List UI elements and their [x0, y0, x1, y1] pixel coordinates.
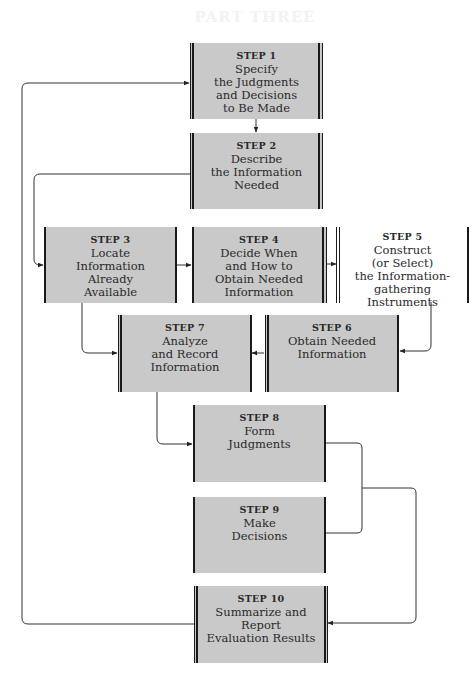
step-1-box: STEP 1 Specify the Judgments and Decisio…: [190, 43, 323, 119]
step-7-label: STEP 7: [128, 321, 242, 334]
step-6-box: STEP 6 Obtain Needed Information: [265, 315, 399, 392]
step-7-text: Information: [128, 361, 242, 374]
step-9-text: Decisions: [203, 530, 316, 543]
step-10-label: STEP 10: [204, 592, 318, 605]
step-10-text: Evaluation Results: [204, 632, 318, 645]
step-4-box: STEP 4 Decide When and How to Obtain Nee…: [192, 227, 326, 303]
arrow-step3-to-step7: [82, 302, 117, 353]
arrow-step7-to-step8: [157, 392, 192, 444]
step-1-text: to Be Made: [200, 102, 313, 115]
step-7-box: STEP 7 Analyze and Record Information: [118, 315, 252, 392]
arrow-step5-to-step6: [400, 302, 431, 351]
step-8-label: STEP 8: [203, 411, 316, 424]
step-8-box: STEP 8 Form Judgments: [193, 405, 326, 482]
step-5-box: STEP 5 Construct (or Select) the Informa…: [336, 227, 469, 303]
step-3-text: Available: [54, 286, 167, 299]
step-4-label: STEP 4: [202, 233, 316, 246]
step-6-label: STEP 6: [275, 321, 389, 334]
step-6-text: Information: [275, 348, 389, 361]
step-10-box: STEP 10 Summarize and Report Evaluation …: [194, 586, 328, 663]
flowchart-canvas: PART THREE: [0, 0, 472, 693]
step-3-label: STEP 3: [54, 233, 167, 246]
step-2-box: STEP 2 Describe the Information Needed: [190, 133, 323, 209]
arrow-bracket-to-step10: [328, 488, 416, 623]
step-4-text: Information: [202, 286, 316, 299]
step-5-text: Instruments: [346, 296, 459, 309]
step-8-text: Judgments: [203, 438, 316, 451]
step-2-label: STEP 2: [200, 139, 313, 152]
step-9-label: STEP 9: [203, 503, 316, 516]
step-5-label: STEP 5: [346, 230, 459, 243]
bracket-step8-step9: [326, 443, 362, 533]
step-9-box: STEP 9 Make Decisions: [193, 497, 326, 573]
step-1-label: STEP 1: [200, 49, 313, 62]
step-3-box: STEP 3 Locate Information Already Availa…: [44, 227, 177, 303]
step-2-text: Needed: [200, 179, 313, 192]
